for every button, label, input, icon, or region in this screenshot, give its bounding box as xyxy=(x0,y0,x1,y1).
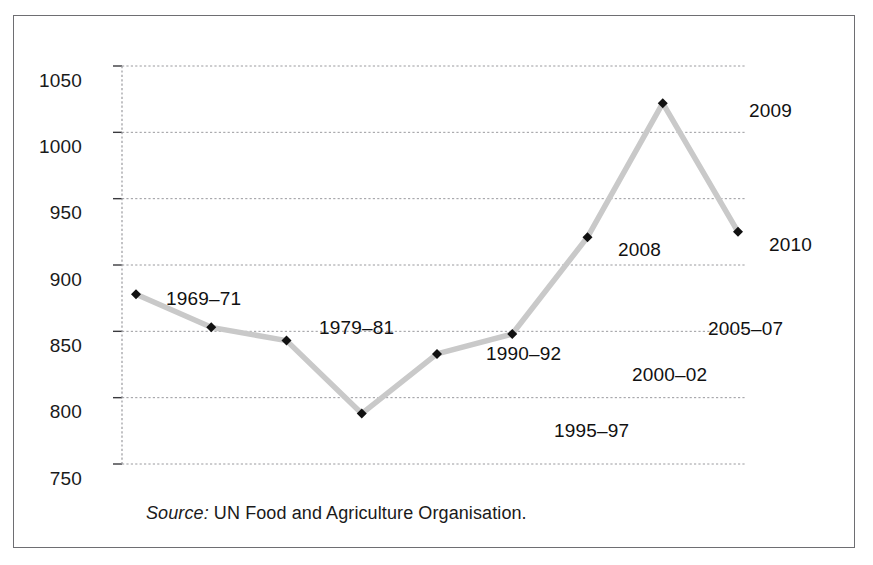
chart-plot-area: 10501000950900850800750 1969–711979–8119… xyxy=(14,16,856,549)
figure-frame-border: 10501000950900850800750 1969–711979–8119… xyxy=(13,15,855,548)
source-note-text: UN Food and Agriculture Organisation. xyxy=(209,503,527,523)
data-point-label: 2005–07 xyxy=(708,318,783,340)
y-axis-tick-label: 750 xyxy=(14,468,82,490)
data-point-label: 2000–02 xyxy=(632,364,707,386)
figure-root: 10501000950900850800750 1969–711979–8119… xyxy=(0,0,873,565)
line-chart-svg xyxy=(14,16,856,549)
data-point-label: 2008 xyxy=(14,239,661,261)
y-axis-tick-label: 850 xyxy=(14,335,82,357)
data-point-label: 2009 xyxy=(749,100,792,122)
data-point-label: 1990–92 xyxy=(486,343,561,365)
y-axis-tick-label: 1050 xyxy=(14,70,82,92)
data-point-label: 1979–81 xyxy=(319,317,394,339)
data-point-label: 1969–71 xyxy=(166,288,241,310)
source-note-prefix: Source: xyxy=(146,503,209,523)
y-axis-tick-label: 950 xyxy=(14,202,82,224)
data-point-label: 2010 xyxy=(769,234,812,256)
y-axis-tick-label: 900 xyxy=(14,269,82,291)
data-point-label: 1995–97 xyxy=(554,420,629,442)
source-note: Source: UN Food and Agriculture Organisa… xyxy=(146,503,527,524)
y-axis-tick-label: 800 xyxy=(14,401,82,423)
y-axis-tick-label: 1000 xyxy=(14,136,82,158)
